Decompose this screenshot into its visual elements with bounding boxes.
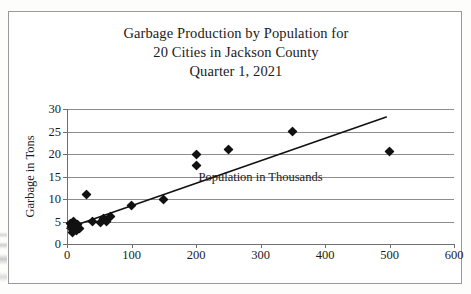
y-tick-label-15: 15 xyxy=(49,169,62,184)
y-tick-label-0: 0 xyxy=(55,237,61,252)
chart-title-line-1: Garbage Production by Population for xyxy=(9,24,463,43)
y-tick-label-20: 20 xyxy=(49,147,62,162)
x-tick-label-400: 400 xyxy=(316,248,335,263)
scatter-point xyxy=(288,127,298,137)
x-axis-title-label: Population in Thousands xyxy=(198,170,322,184)
y-tick-label-5: 5 xyxy=(55,214,61,229)
scatter-point xyxy=(191,149,201,159)
x-tick-label-200: 200 xyxy=(187,248,206,263)
y-axis-title: Garbage in Tons xyxy=(22,109,38,244)
y-tick-30 xyxy=(63,109,67,110)
y-axis-title-label: Garbage in Tons xyxy=(23,135,38,217)
x-tick-label-300: 300 xyxy=(251,248,270,263)
y-tick-25 xyxy=(63,132,67,133)
figure-frame: Garbage Production by Population for 20 … xyxy=(8,11,462,284)
scan-artifact xyxy=(0,232,7,290)
chart-title: Garbage Production by Population for 20 … xyxy=(9,24,463,81)
gridline-y-5 xyxy=(67,222,454,223)
y-tick-label-25: 25 xyxy=(49,124,62,139)
x-tick-label-100: 100 xyxy=(122,248,141,263)
chart-title-line-2: 20 Cities in Jackson County xyxy=(9,43,463,62)
scatter-point xyxy=(159,194,169,204)
scatter-point xyxy=(191,160,201,170)
gridline-y-10 xyxy=(67,199,454,200)
x-tick-label-500: 500 xyxy=(380,248,399,263)
x-axis-title: Population in Thousands xyxy=(67,170,454,185)
scatter-point xyxy=(81,190,91,200)
scatter-point xyxy=(385,147,395,157)
gridline-y-30 xyxy=(67,109,454,110)
y-tick-label-10: 10 xyxy=(49,192,62,207)
y-tick-20 xyxy=(63,154,67,155)
y-tick-label-30: 30 xyxy=(49,102,62,117)
gridline-y-25 xyxy=(67,132,454,133)
y-tick-10 xyxy=(63,199,67,200)
scatter-point xyxy=(223,145,233,155)
x-tick-label-600: 600 xyxy=(445,248,464,263)
gridline-y-20 xyxy=(67,154,454,155)
scatter-point xyxy=(127,201,137,211)
x-tick-label-0: 0 xyxy=(64,248,70,263)
chart-title-line-3: Quarter 1, 2021 xyxy=(9,62,463,81)
